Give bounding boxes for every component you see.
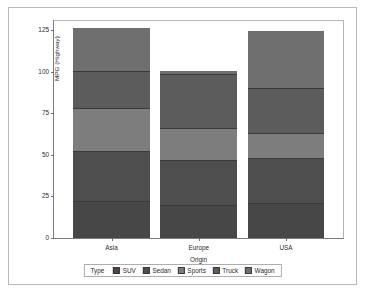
bar-segment-asia-sedan[interactable] — [73, 151, 150, 201]
plot-area: MPG (Highway) 125 100 75 50 25 0 — [53, 20, 344, 239]
y-tick-label: 0 — [45, 234, 49, 241]
bar-segment-europe-sedan[interactable] — [160, 160, 237, 205]
legend-swatch-truck — [213, 267, 220, 274]
bar-segment-asia-wagon[interactable] — [73, 28, 150, 71]
x-tick-mark-europe — [199, 238, 200, 241]
x-tick-label-asia: Asia — [105, 244, 117, 251]
legend-swatch-sedan — [143, 267, 150, 274]
bar-segment-usa-suv[interactable] — [248, 203, 325, 238]
bar-segment-europe-suv[interactable] — [160, 205, 237, 238]
legend-label-sedan: Sedan — [152, 267, 170, 274]
legend-item-wagon[interactable]: Wagon — [245, 267, 275, 274]
bar-segment-usa-wagon[interactable] — [248, 31, 325, 88]
y-tick-label: 75 — [42, 109, 49, 116]
y-tick-label: 100 — [38, 68, 49, 75]
legend-item-suv[interactable]: SUV — [113, 267, 136, 274]
legend-swatch-wagon — [245, 267, 252, 274]
y-axis-title: MPG (Highway) — [53, 0, 60, 81]
bar-segment-asia-suv[interactable] — [73, 201, 150, 238]
y-tick-mark — [51, 196, 54, 197]
legend-swatch-sports — [178, 267, 185, 274]
legend-label-sports: Sports — [187, 267, 205, 274]
legend-item-truck[interactable]: Truck — [213, 267, 238, 274]
bar-segment-usa-sports[interactable] — [248, 133, 325, 158]
y-tick-label: 125 — [38, 26, 49, 33]
bar-asia[interactable] — [73, 28, 150, 238]
x-tick-mark-asia — [112, 238, 113, 241]
y-tick-mark — [51, 238, 54, 239]
bar-segment-asia-truck[interactable] — [73, 71, 150, 108]
x-tick-label-europe: Europe — [188, 244, 209, 251]
y-tick-mark — [51, 155, 54, 156]
x-tick-mark-usa — [286, 238, 287, 241]
chart-legend: Type SUV Sedan Sports Truck Wagon — [83, 264, 281, 277]
legend-label-wagon: Wagon — [255, 267, 275, 274]
y-tick-mark — [51, 113, 54, 114]
bar-segment-usa-truck[interactable] — [248, 88, 325, 133]
y-tick-label: 50 — [42, 151, 49, 158]
legend-label-truck: Truck — [222, 267, 238, 274]
y-tick-mark — [51, 72, 54, 73]
legend-label-suv: SUV — [123, 267, 136, 274]
bar-europe[interactable] — [160, 71, 237, 238]
bar-segment-europe-truck[interactable] — [160, 74, 237, 127]
chart-frame: MPG (Highway) 125 100 75 50 25 0 — [8, 7, 357, 285]
bar-segment-asia-sports[interactable] — [73, 108, 150, 151]
legend-item-sports[interactable]: Sports — [178, 267, 206, 274]
x-tick-label-usa: USA — [279, 244, 292, 251]
legend-swatch-suv — [113, 267, 120, 274]
bar-segment-usa-sedan[interactable] — [248, 158, 325, 203]
bar-usa[interactable] — [248, 31, 325, 238]
bar-segment-europe-sports[interactable] — [160, 128, 237, 160]
legend-title: Type — [90, 267, 104, 274]
x-axis-title: Origin — [54, 256, 343, 263]
legend-item-sedan[interactable]: Sedan — [143, 267, 171, 274]
y-tick-mark — [51, 30, 54, 31]
y-tick-label: 25 — [42, 192, 49, 199]
